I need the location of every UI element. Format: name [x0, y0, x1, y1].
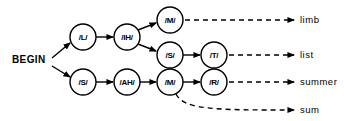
node-r[interactable]: /R/ [201, 69, 227, 95]
node-s-middle[interactable]: /S/ [157, 42, 183, 68]
node-s-bottom-label: /S/ [78, 78, 88, 87]
node-t-label: /T/ [210, 51, 220, 60]
node-m-top[interactable]: /M/ [157, 7, 183, 33]
output-label-sum: sum [300, 104, 319, 115]
node-m-bottom-label: /M/ [165, 78, 176, 87]
node-ih[interactable]: /IH/ [114, 24, 140, 50]
phonetic-lattice-diagram: BEGIN /L/ /IH/ /M/ /S/ /T/ [0, 0, 344, 121]
node-t[interactable]: /T/ [201, 42, 227, 68]
output-label-list: list [300, 49, 314, 60]
output-label-summer: summer [300, 76, 337, 87]
node-ah[interactable]: /AH/ [114, 69, 140, 95]
dashed-edge-m2-to-sum [176, 94, 294, 110]
node-r-label: /R/ [209, 78, 220, 87]
output-label-limb: limb [300, 14, 319, 25]
diagram-canvas: BEGIN /L/ /IH/ /M/ /S/ /T/ [0, 0, 344, 121]
node-s-middle-label: /S/ [165, 51, 175, 60]
output-label-group: limb list summer sum [300, 14, 337, 115]
node-ih-label: /IH/ [121, 33, 134, 42]
node-s-bottom[interactable]: /S/ [70, 69, 96, 95]
dashed-edge-group [176, 20, 294, 110]
begin-label: BEGIN [12, 54, 46, 65]
node-m-top-label: /M/ [165, 16, 176, 25]
node-ah-label: /AH/ [119, 78, 135, 87]
node-l[interactable]: /L/ [70, 24, 96, 50]
edge-begin-to-s2 [52, 66, 70, 77]
edge-begin-to-l [52, 43, 70, 58]
node-m-bottom[interactable]: /M/ [157, 69, 183, 95]
node-l-label: /L/ [79, 33, 89, 42]
edge-ih-to-m1 [138, 23, 156, 30]
edge-ih-to-s1 [138, 44, 156, 51]
